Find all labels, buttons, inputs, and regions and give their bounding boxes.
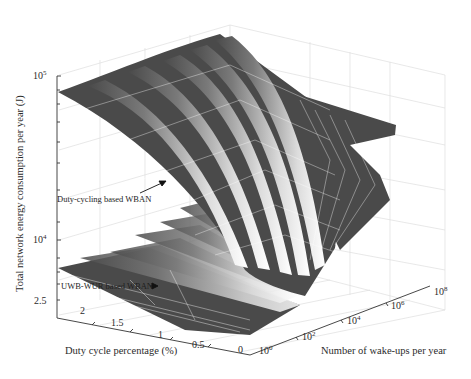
y-tick-base: 10	[434, 286, 444, 297]
z-tick-base: 10	[33, 70, 43, 81]
z-tick-base: 10	[33, 234, 43, 245]
y-tick-exp: 8	[444, 285, 448, 293]
annotation-duty-cycling: Duty-cycling based WBAN	[57, 195, 151, 204]
x-tick: 2	[80, 306, 85, 316]
annotation-uwb-wur: UWB-WUR based WBAN	[61, 282, 153, 291]
y-tick-base: 10	[347, 315, 357, 326]
x-tick: 2.5	[34, 296, 47, 306]
z-tick-exp: 5	[43, 69, 47, 77]
y-tick: 100	[259, 345, 273, 356]
y-tick: 108	[434, 286, 448, 297]
x-tick: 0.5	[192, 340, 205, 350]
y-tick-base: 10	[302, 331, 312, 342]
y-axis-label: Number of wake-ups per year	[321, 346, 446, 357]
y-tick: 102	[302, 331, 316, 342]
y-tick-exp: 6	[401, 299, 405, 307]
z-tick-1e4: 104	[33, 234, 47, 245]
surface-plot	[0, 0, 471, 379]
y-tick-exp: 4	[357, 314, 361, 322]
y-tick-exp: 2	[312, 330, 316, 338]
z-tick-exp: 4	[43, 233, 47, 241]
y-tick-exp: 0	[269, 344, 273, 352]
y-tick: 104	[347, 315, 361, 326]
y-tick: 106	[391, 300, 405, 311]
z-axis-label: Total network energy consumption per yea…	[14, 95, 25, 292]
x-tick: 1.5	[111, 318, 124, 328]
x-axis-label: Duty cycle percentage (%)	[65, 346, 177, 357]
y-tick-base: 10	[391, 300, 401, 311]
x-tick: 1	[158, 330, 163, 340]
z-tick-1e5: 105	[33, 70, 47, 81]
y-tick-base: 10	[259, 345, 269, 356]
x-tick: 0	[238, 345, 243, 355]
